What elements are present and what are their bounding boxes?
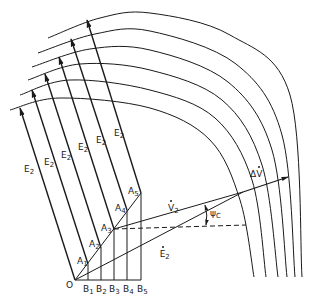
e2-label-2: E2 xyxy=(44,158,54,169)
velocity-arc-3 xyxy=(28,63,278,277)
v2-label: V2 xyxy=(168,203,179,213)
horizontal-reference-dashed xyxy=(114,225,246,229)
e2-label-4: E2 xyxy=(78,143,88,154)
a1-label: A1 xyxy=(77,257,88,268)
b3-label: B3 xyxy=(109,285,120,296)
a4-label: A4 xyxy=(115,204,126,215)
b2-label: B2 xyxy=(96,285,107,296)
e2-label-5: E2 xyxy=(96,136,106,147)
e2-label-3: E2 xyxy=(61,151,71,162)
a2-label: A2 xyxy=(89,240,100,251)
vector-diagram: O B1 B2 B3 B4 B5 A1 A2 A3 A4 A5 E2 E2 E2… xyxy=(0,0,327,300)
e2-vector-6 xyxy=(87,20,141,193)
a3-label: A3 xyxy=(101,224,112,235)
b4-label: B4 xyxy=(123,285,134,296)
delta-v-label: ΔV xyxy=(250,170,262,179)
angle-arc-psi-c xyxy=(205,205,207,225)
velocity-arc-5 xyxy=(38,29,295,277)
origin-label: O xyxy=(66,281,73,290)
psi-c-label: ψC xyxy=(210,209,221,220)
b1-label: B1 xyxy=(83,285,94,296)
e2-label-6: E2 xyxy=(114,129,124,140)
b5-label: B5 xyxy=(137,285,148,296)
a5-label: A5 xyxy=(128,187,139,198)
e2-vector-1 xyxy=(20,108,75,280)
e2-vector-2 xyxy=(32,90,88,264)
e2-dot-label: E2 xyxy=(160,249,170,259)
e2-dot-line xyxy=(75,192,243,280)
e2-label-1: E2 xyxy=(24,165,34,176)
